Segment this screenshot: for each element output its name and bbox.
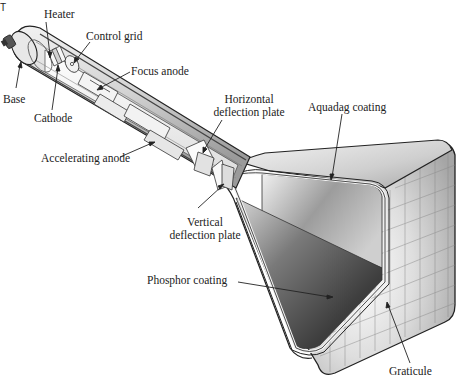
crt-illustration xyxy=(0,0,457,385)
label-focus-anode: Focus anode xyxy=(131,65,189,78)
label-control-grid: Control grid xyxy=(86,30,143,43)
crt-diagram: T Heater Control grid Focus anode Base C… xyxy=(0,0,457,385)
label-accelerating-anode: Accelerating anode xyxy=(41,152,130,165)
label-phosphor-coating: Phosphor coating xyxy=(147,274,227,287)
label-base: Base xyxy=(3,93,25,106)
label-horizontal-line2: deflection plate xyxy=(194,106,304,119)
label-vertical-deflection-plate: Vertical deflection plate xyxy=(150,216,260,242)
label-vertical-line1: Vertical xyxy=(150,216,260,229)
label-vertical-line2: deflection plate xyxy=(150,229,260,242)
label-aquadag-coating: Aquadag coating xyxy=(308,101,386,114)
label-heater: Heater xyxy=(44,8,75,21)
corner-mark: T xyxy=(0,1,6,14)
label-horizontal-line1: Horizontal xyxy=(194,93,304,106)
label-graticule: Graticule xyxy=(389,365,432,378)
label-horizontal-deflection-plate: Horizontal deflection plate xyxy=(194,93,304,119)
label-cathode: Cathode xyxy=(34,112,72,125)
